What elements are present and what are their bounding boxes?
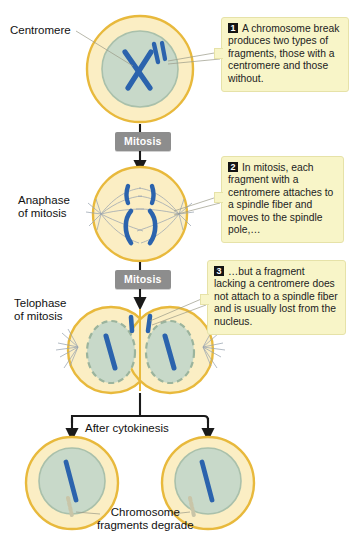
cell-telophase (56, 307, 225, 393)
label-after-cytokinesis: After cytokinesis (85, 422, 169, 435)
step-mitosis-2: Mitosis (115, 270, 171, 289)
callout-1-text: A chromosome break produces two types of… (228, 23, 339, 84)
callout-2-number: 2 (228, 162, 238, 172)
callout-2: 2In mitosis, each fragment with a centro… (221, 156, 344, 243)
callout-3: 3…but a fragment lacking a centromere do… (207, 260, 346, 335)
label-centromere: Centromere (10, 24, 71, 37)
callout-1-notch (214, 48, 223, 59)
label-anaphase: Anaphase of mitosis (18, 194, 70, 220)
label-telophase: Telophase of mitosis (14, 297, 66, 323)
cell-interphase (76, 16, 193, 122)
callout-2-notch (214, 192, 223, 203)
callout-3-notch (200, 294, 209, 305)
step-mitosis-1: Mitosis (115, 132, 171, 151)
callout-2-text: In mitosis, each fragment with a centrom… (228, 162, 333, 235)
callout-3-number: 3 (214, 266, 224, 276)
callout-1-number: 1 (228, 23, 238, 33)
callout-3-text: …but a fragment lacking a centromere doe… (214, 266, 338, 327)
callout-1: 1A chromosome break produces two types o… (221, 17, 349, 92)
label-fragments-degrade: Chromosome fragments degrade (97, 506, 194, 532)
